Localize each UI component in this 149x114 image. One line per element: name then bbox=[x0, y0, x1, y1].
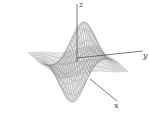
x-axis-label: x bbox=[114, 102, 119, 110]
surface-plot bbox=[0, 0, 149, 114]
x-axis bbox=[90, 79, 117, 101]
surface-mesh bbox=[28, 22, 128, 103]
z-axis-label: z bbox=[79, 1, 83, 9]
y-axis bbox=[77, 51, 143, 58]
y-axis-label: y bbox=[143, 52, 148, 60]
